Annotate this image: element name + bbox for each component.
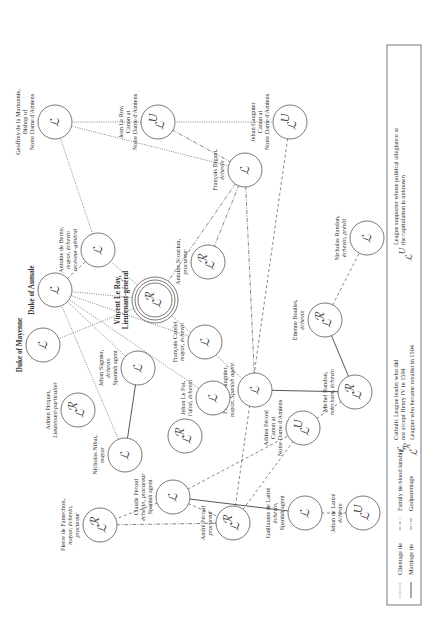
node-jean-le-roy: ℒUJean Le Roy,Canon atNotre Dame d'Amien… <box>117 93 175 150</box>
node-antoine-scourion: ℒℛAntoine Scourion,procureur <box>174 238 225 285</box>
symbol-l-icon: ℒ <box>298 509 312 518</box>
legend-family-label: Family tie blood kinship <box>396 449 403 511</box>
svg-text:ℒ: ℒ <box>48 286 62 295</box>
svg-text:Adrien Picquet,: Adrien Picquet, <box>44 390 51 430</box>
symbol-l-icon: ℒ <box>238 166 252 175</box>
nodes-layer: ℒGeoffrey de la Martonnie,Bishop ofNotre… <box>14 89 384 551</box>
node-label: Antoine Scourion,procureur <box>174 238 188 285</box>
svg-text:mayor, échevin: mayor, échevin <box>178 323 185 361</box>
svg-text:procureur: procureur <box>206 510 213 537</box>
legend-clientage-label: Clientage tie <box>396 543 403 575</box>
svg-text:Jean Le Roy,: Jean Le Roy, <box>117 105 124 138</box>
node-francois-bigant: ℒFrançois Bigant,échevin <box>211 149 262 191</box>
svg-text:François Catelet: François Catelet <box>171 321 178 362</box>
node-label: Vincent Le Roy,Lieutenant-général <box>114 271 130 330</box>
node-jehan-le-pot: ℒJehan Le Pot,l'aîné, échevin <box>179 380 230 416</box>
node-etienne-boullet: ℒℛEtienne Boullet,échevin <box>291 299 342 340</box>
svg-text:ℛ: ℛ <box>66 401 80 412</box>
svg-text:merchant, échevin: merchant, échevin <box>328 369 335 415</box>
svg-text:ℒ: ℒ <box>298 509 312 518</box>
edge-godparentage <box>155 170 245 300</box>
symbol-l-icon: ℒ <box>118 451 132 460</box>
svg-text:Antoine de Berny,: Antoine de Berny, <box>57 227 64 273</box>
legend-symbol-label: League supporter whose political allegia… <box>392 128 399 245</box>
svg-text:ℛ: ℛ <box>143 291 157 302</box>
node-label: Nicholas Randon,échevin, prévôt <box>333 215 347 261</box>
legend-symbol-label: Leaguer who became royalist in 1594 <box>408 344 415 440</box>
node-guillaume-lattre: ℒGuillaume de Lattrééchevin,Spanish agen… <box>264 487 322 538</box>
svg-text:Lieutenant-général: Lieutenant-général <box>122 271 130 330</box>
svg-text:Adrien Pécoul: Adrien Pécoul <box>262 410 269 446</box>
symbol-l-icon: ℒ <box>48 118 62 127</box>
svg-text:Canon at: Canon at <box>269 416 276 439</box>
edge-godparentage <box>245 170 255 390</box>
svg-text:ℒ: ℒ <box>360 234 374 243</box>
svg-text:échevin, procureur: échevin, procureur <box>139 473 146 521</box>
svg-text:Geoffrey de la Martonnie,: Geoffrey de la Martonnie, <box>14 89 21 155</box>
node-label: Jehan de Lattrééchevin <box>329 494 343 533</box>
symbol-l-icon: ℒ <box>248 386 262 395</box>
node-label: Jehan Sagnier,échevinSpanish agent <box>97 349 118 386</box>
svg-text:ℒ: ℒ <box>206 394 220 403</box>
svg-text:Jehan Gaugnier: Jehan Gaugnier <box>249 101 256 141</box>
legend-godparentage-label: Godparentage <box>407 475 414 511</box>
node-label: Antoine de Berny,mayor, échevinreceveur-… <box>57 227 78 273</box>
svg-text:ℒ: ℒ <box>238 166 252 175</box>
node-label: Adrien PécoulCanon atNotre Dame d'Amiens <box>262 399 283 456</box>
svg-text:Michel Randon,: Michel Randon, <box>321 371 328 412</box>
svg-text:ℒ: ℒ <box>48 118 62 127</box>
symbol-l-icon: ℒ <box>166 493 180 502</box>
svg-text:Notre Dame d'Amiens: Notre Dame d'Amiens <box>263 93 270 150</box>
svg-text:Jehan Le Pot,: Jehan Le Pot, <box>179 381 186 416</box>
svg-text:François Bigant,: François Bigant, <box>211 149 218 191</box>
node-antoine-berny: ℒAntoine de Berny,mayor, échevinreceveur… <box>57 227 115 273</box>
node-michel-randon: ℒℛMichel Randon,merchant, échevin <box>321 369 372 415</box>
svg-text:André Pécoul: André Pécoul <box>199 506 206 541</box>
node-label: François Cateletmayor, échevin <box>171 321 185 362</box>
svg-text:ℛ: ℛ <box>343 383 357 394</box>
node-jehan-lattre: ℒUJehan de Lattrééchevin <box>329 494 380 533</box>
legend-symbol-label: Catholic League leader who did <box>392 359 399 440</box>
svg-text:Vincent Le Roy,: Vincent Le Roy, <box>114 275 122 324</box>
svg-text:Jehan Sagnier,: Jehan Sagnier, <box>97 349 104 386</box>
legend-symbol-label: the capitulation is unknown <box>399 174 406 245</box>
svg-text:U: U <box>278 112 292 122</box>
svg-text:Guillaume de Lattré: Guillaume de Lattré <box>264 487 271 538</box>
svg-text:Lieutenant-particulier: Lieutenant-particulier <box>51 381 58 439</box>
node-claude-pecoul: ℒClaude Pécouléchevin, procureurSpanish … <box>132 473 190 521</box>
node-pierre-famechon: ℒℛPierre de Famechon,mayor, échevin,proc… <box>59 499 117 551</box>
svg-text:ℒ: ℒ <box>198 338 212 347</box>
svg-text:receveur-général: receveur-général <box>71 228 78 271</box>
node-label: François Bigant,échevin <box>211 149 225 191</box>
svg-text:Nicholas Randon,: Nicholas Randon, <box>333 215 340 261</box>
symbol-l-icon: ℒ <box>206 394 220 403</box>
svg-text:ℛ: ℛ <box>88 516 102 527</box>
node-label: Jean Le Roy,Canon atNotre Dame d'Amiens <box>117 93 138 150</box>
svg-text:ℛ: ℛ <box>402 443 412 451</box>
svg-text:U: U <box>397 247 407 254</box>
svg-text:Spanish agent: Spanish agent <box>278 495 285 530</box>
node-label: Pierre de Famechon,mayor, échevin,procur… <box>59 499 80 551</box>
node-label: Etienne Boullet,échevin <box>291 299 305 340</box>
svg-text:Duke of Aumale: Duke of Aumale <box>28 265 36 315</box>
svg-text:mayor, échevin,: mayor, échevin, <box>66 505 73 545</box>
svg-text:Duke of Mayenne: Duke of Mayenne <box>16 318 24 372</box>
symbol-l-icon: ℒ <box>198 338 212 347</box>
svg-text:Etienne Boullet,: Etienne Boullet, <box>291 299 298 340</box>
legend: Clientage tieMarriage tieFamily tie bloo… <box>387 45 421 605</box>
svg-text:mayor, échevin: mayor, échevin <box>64 231 71 269</box>
svg-text:U: U <box>351 503 365 513</box>
svg-text:procureur: procureur <box>181 249 188 276</box>
symbol-l-icon: ℒ <box>91 246 105 255</box>
svg-text:Spanish agent: Spanish agent <box>146 479 153 514</box>
svg-text:Canon at: Canon at <box>256 110 263 133</box>
svg-text:ℒ: ℒ <box>118 451 132 460</box>
node-sagnier-r: ℒℛ <box>168 419 202 453</box>
svg-text:ℛ: ℛ <box>221 514 235 525</box>
svg-text:Bishop of: Bishop of <box>21 109 28 135</box>
node-geoffrey: ℒGeoffrey de la Martonnie,Bishop ofNotre… <box>14 89 72 155</box>
svg-text:ℛ: ℛ <box>313 311 327 322</box>
svg-text:Notre Dame d'Amiens: Notre Dame d'Amiens <box>131 93 138 150</box>
node-label: Jehan Le Pot,l'aîné, échevin <box>179 380 193 416</box>
svg-text:échevin,: échevin, <box>271 502 278 523</box>
